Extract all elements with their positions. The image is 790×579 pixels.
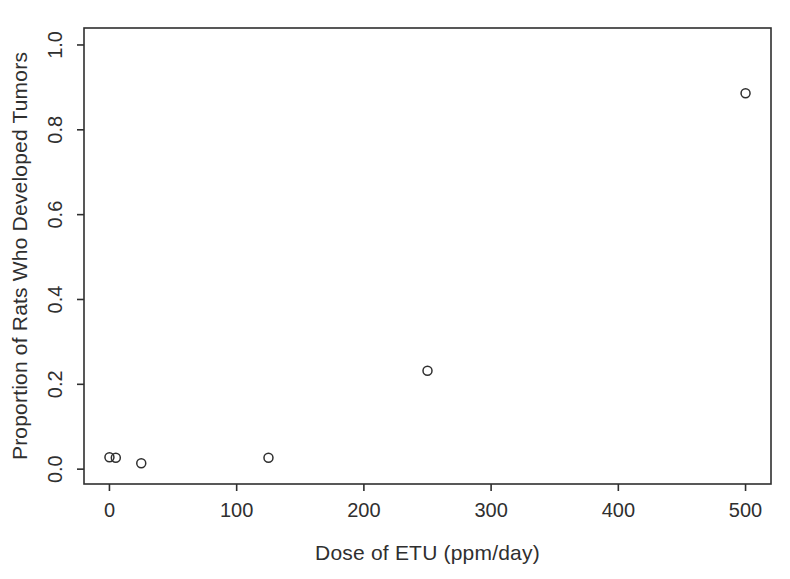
data-point bbox=[264, 453, 273, 462]
x-tick-label: 500 bbox=[729, 499, 762, 521]
y-tick-label: 0.4 bbox=[44, 286, 66, 314]
y-axis-label: Proportion of Rats Who Developed Tumors bbox=[8, 28, 32, 484]
y-tick-label: 0.2 bbox=[44, 370, 66, 398]
y-tick-label: 1.0 bbox=[44, 31, 66, 59]
x-tick-label: 200 bbox=[347, 499, 380, 521]
x-tick-label: 100 bbox=[220, 499, 253, 521]
y-tick-label: 0.6 bbox=[44, 201, 66, 229]
x-tick-label: 300 bbox=[474, 499, 507, 521]
y-tick-label: 0.8 bbox=[44, 116, 66, 144]
data-point bbox=[741, 89, 750, 98]
data-point bbox=[111, 453, 120, 462]
x-tick-label: 400 bbox=[602, 499, 635, 521]
x-axis-label: Dose of ETU (ppm/day) bbox=[84, 541, 771, 565]
etu-scatter-figure: 01002003004005000.00.20.40.60.81.0 Dose … bbox=[0, 0, 790, 579]
data-point bbox=[137, 459, 146, 468]
y-tick-label: 0.0 bbox=[44, 455, 66, 483]
x-tick-label: 0 bbox=[104, 499, 115, 521]
plot-area: 01002003004005000.00.20.40.60.81.0 bbox=[0, 0, 790, 579]
plot-box bbox=[84, 28, 771, 484]
data-point bbox=[423, 366, 432, 375]
